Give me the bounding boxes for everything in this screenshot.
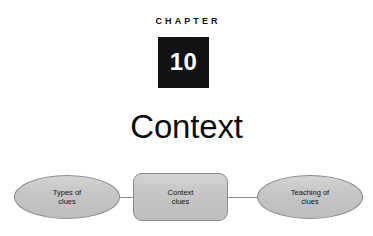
- node-label-line2: clues: [301, 197, 319, 206]
- node-types-of-clues[interactable]: Types ofclues: [14, 175, 120, 219]
- connector-context-to-teaching: [226, 197, 260, 198]
- node-label-line1: Context: [168, 188, 194, 197]
- node-label-line1: Teaching of: [291, 188, 329, 197]
- node-label: Types ofclues: [47, 188, 87, 207]
- node-context-clues[interactable]: Contextclues: [133, 173, 228, 221]
- node-teaching-of-clues[interactable]: Teaching ofclues: [257, 175, 363, 219]
- node-label-line2: clues: [172, 197, 190, 206]
- chapter-number: 10: [170, 50, 198, 75]
- page-title: Context: [0, 107, 373, 147]
- chapter-number-badge: 10: [158, 37, 209, 88]
- node-label-line1: Types of: [53, 188, 81, 197]
- chapter-opening-page: CHAPTER 10 Context Types ofclues Context…: [0, 0, 373, 236]
- node-label: Contextclues: [162, 188, 200, 207]
- node-label-line2: clues: [58, 197, 76, 206]
- node-label: Teaching ofclues: [285, 188, 335, 207]
- chapter-label: CHAPTER: [0, 15, 373, 27]
- concept-map-diagram: Types ofclues Contextclues Teaching ofcl…: [0, 168, 373, 228]
